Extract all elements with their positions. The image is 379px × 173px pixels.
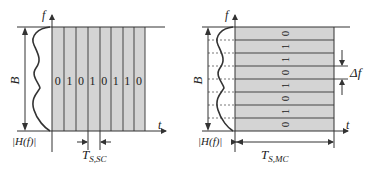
bit: 0 <box>278 27 291 41</box>
bandwidth-label: B <box>8 77 21 85</box>
symbol-period-label: TS,MC <box>261 148 288 164</box>
symbol-period-label: TS,SC <box>82 148 107 164</box>
bit: 1 <box>110 74 122 89</box>
bit: 1 <box>278 53 291 67</box>
channel-response-curve <box>33 27 50 131</box>
bit: 1 <box>278 105 291 119</box>
f-axis-label: f <box>225 9 228 21</box>
bit: 1 <box>278 40 291 54</box>
bit: 0 <box>133 74 145 89</box>
bit: 1 <box>122 74 134 89</box>
bit: 0 <box>75 74 87 89</box>
t-axis-label: t <box>158 119 161 131</box>
bandwidth-arrow-head-down <box>22 123 28 131</box>
bit-sequence-row: 0 1 0 1 0 1 1 0 <box>52 74 145 89</box>
bit: 1 <box>87 74 99 89</box>
bit: 1 <box>278 79 291 93</box>
tmc-arrow-head-left <box>236 139 243 145</box>
channel-label: |H(f)| <box>12 136 36 147</box>
bit: 0 <box>278 118 291 132</box>
bit-sequence-column: 0 1 0 1 0 1 1 0 <box>277 27 291 131</box>
bit: 0 <box>278 66 291 80</box>
bandwidth-arrow-head-up <box>22 27 28 35</box>
bit: 0 <box>98 74 110 89</box>
t-axis-label: t <box>346 119 349 131</box>
bit: 1 <box>64 74 76 89</box>
bit: 0 <box>278 92 291 106</box>
f-axis-label: f <box>42 9 45 21</box>
bandwidth-label: B <box>191 77 204 85</box>
subcarrier-spacing-label: Δf <box>350 66 361 79</box>
bandwidth-arrow-head-down <box>205 123 211 131</box>
channel-label: |H(f)| <box>198 136 222 147</box>
multi-carrier-panel <box>202 15 350 152</box>
bit: 0 <box>52 74 64 89</box>
bandwidth-arrow-head-up <box>205 27 211 35</box>
